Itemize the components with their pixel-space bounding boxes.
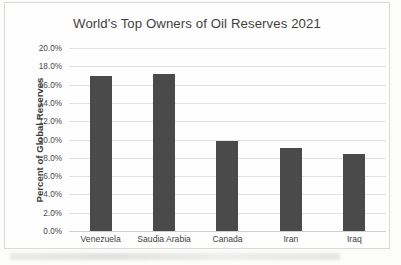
- x-axis-tick-label: Saudia Arabia: [137, 234, 191, 244]
- bar-slot: [259, 48, 322, 231]
- y-axis-tick-label: 14.0%: [39, 98, 62, 107]
- x-axis-tick-label: Venezuela: [81, 234, 121, 244]
- x-axis-tick-labels: VenezuelaSaudia ArabiaCanadaIranIraq: [69, 234, 386, 250]
- y-axis-tick-label: 16.0%: [39, 80, 62, 89]
- chart-container: World's Top Owners of Oil Reserves 2021 …: [4, 2, 390, 249]
- y-axis-tick-label: 0.0%: [43, 227, 62, 236]
- y-axis-tick-label: 8.0%: [43, 153, 62, 162]
- bar-slot: [323, 48, 386, 231]
- y-axis-tick-label: 6.0%: [43, 172, 62, 181]
- bar-iraq: [343, 154, 365, 231]
- x-axis-tick-label: Iran: [283, 234, 298, 244]
- y-axis-tick-label: 12.0%: [39, 117, 62, 126]
- bar-saudia-arabia: [153, 74, 175, 231]
- x-axis-tick-label: Iraq: [347, 234, 362, 244]
- y-axis-tick-label: 4.0%: [43, 190, 62, 199]
- y-axis-tick-label: 20.0%: [39, 44, 62, 53]
- bar-slot: [132, 48, 195, 231]
- bar-slot: [69, 48, 132, 231]
- bar-venezuela: [90, 76, 112, 231]
- y-axis-tick-label: 10.0%: [39, 135, 62, 144]
- plot-area: [69, 48, 386, 231]
- scan-artifact: [10, 253, 340, 260]
- bar-canada: [216, 141, 238, 231]
- y-axis-tick-label: 18.0%: [39, 62, 62, 71]
- scanned-page-background: World's Top Owners of Oil Reserves 2021 …: [0, 0, 401, 265]
- y-axis-tick-label: 2.0%: [43, 208, 62, 217]
- y-axis-tick-labels: 20.0%18.0%16.0%14.0%12.0%10.0%8.0%6.0%4.…: [5, 48, 67, 231]
- bar-slot: [196, 48, 259, 231]
- chart-title: World's Top Owners of Oil Reserves 2021: [5, 16, 389, 31]
- x-axis-tick-label: Canada: [212, 234, 242, 244]
- bar-iran: [280, 148, 302, 231]
- bar-series: [69, 48, 386, 231]
- gridline: [69, 231, 386, 232]
